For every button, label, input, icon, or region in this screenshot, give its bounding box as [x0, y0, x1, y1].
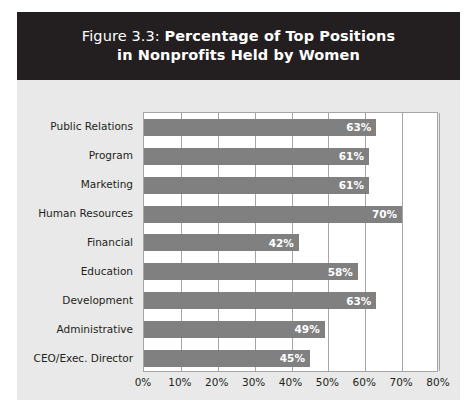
- bar: 61%: [144, 148, 369, 165]
- category-label: Public Relations: [50, 120, 139, 132]
- category-row: Human Resources: [17, 199, 139, 228]
- x-axis-tick-label: 50%: [316, 376, 339, 388]
- category-row: Administrative: [17, 314, 139, 343]
- category-label: Program: [89, 149, 139, 161]
- bar: 63%: [144, 119, 376, 136]
- bar-series: 63%61%61%70%42%58%63%49%45%: [144, 113, 437, 371]
- x-axis-tick-label: 40%: [279, 376, 302, 388]
- bar: 58%: [144, 263, 358, 280]
- bar: 63%: [144, 292, 376, 309]
- x-axis-tick-label: 0%: [135, 376, 152, 388]
- category-row: Education: [17, 256, 139, 285]
- category-label: Financial: [87, 236, 139, 248]
- figure-number-label: Figure 3.3:: [82, 28, 165, 44]
- category-label: Human Resources: [38, 207, 139, 219]
- plot-area: 63%61%61%70%42%58%63%49%45%: [143, 112, 438, 372]
- x-axis-tick-labels: 0%10%20%30%40%50%60%70%80%: [143, 376, 438, 396]
- figure-title-text: Percentage of Top Positions: [164, 28, 395, 44]
- figure-title-line-2: in Nonprofits Held by Women: [117, 46, 360, 65]
- bar-row: 63%: [144, 286, 437, 315]
- bar-row: 63%: [144, 113, 437, 142]
- chart-panel: Public RelationsProgramMarketingHuman Re…: [17, 80, 460, 400]
- bar: 61%: [144, 177, 369, 194]
- x-axis-tick-label: 60%: [353, 376, 376, 388]
- category-label: Marketing: [81, 178, 139, 190]
- category-row: Marketing: [17, 170, 139, 199]
- category-row: Development: [17, 285, 139, 314]
- category-label: CEO/Exec. Director: [34, 352, 139, 364]
- bar: 49%: [144, 321, 325, 338]
- bar-value-label: 49%: [295, 324, 320, 335]
- category-label: Administrative: [57, 323, 139, 335]
- category-row: CEO/Exec. Director: [17, 343, 139, 372]
- bar-row: 70%: [144, 200, 437, 229]
- bar: 42%: [144, 234, 299, 251]
- bar-value-label: 58%: [328, 267, 353, 278]
- y-axis-category-labels: Public RelationsProgramMarketingHuman Re…: [17, 112, 139, 372]
- x-axis-tick-label: 80%: [426, 376, 449, 388]
- bar-row: 42%: [144, 229, 437, 258]
- category-label: Education: [81, 265, 139, 277]
- bar-value-label: 61%: [339, 180, 364, 191]
- bar-value-label: 70%: [372, 209, 397, 220]
- bar: 45%: [144, 350, 310, 367]
- bar-row: 61%: [144, 171, 437, 200]
- figure-container: Figure 3.3: Percentage of Top Positions …: [17, 12, 460, 400]
- bar-row: 58%: [144, 257, 437, 286]
- category-row: Program: [17, 141, 139, 170]
- bar-row: 45%: [144, 344, 437, 373]
- category-label: Development: [62, 294, 139, 306]
- bar: 70%: [144, 206, 402, 223]
- x-axis-tick-label: 10%: [168, 376, 191, 388]
- x-axis-tick-label: 30%: [242, 376, 265, 388]
- figure-title-banner: Figure 3.3: Percentage of Top Positions …: [17, 12, 460, 80]
- bar-row: 49%: [144, 315, 437, 344]
- x-axis-tick-label: 20%: [205, 376, 228, 388]
- bar-row: 61%: [144, 142, 437, 171]
- bar-value-label: 45%: [280, 353, 305, 364]
- category-row: Financial: [17, 228, 139, 257]
- gridline: [439, 113, 440, 371]
- bar-value-label: 63%: [346, 122, 371, 133]
- figure-title-line-1: Figure 3.3: Percentage of Top Positions: [82, 27, 395, 46]
- x-axis-tick-label: 70%: [389, 376, 412, 388]
- bar-value-label: 63%: [346, 296, 371, 307]
- bar-value-label: 61%: [339, 151, 364, 162]
- bar-value-label: 42%: [269, 238, 294, 249]
- category-row: Public Relations: [17, 112, 139, 141]
